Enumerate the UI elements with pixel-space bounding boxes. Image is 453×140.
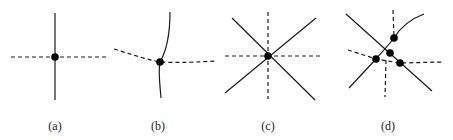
vertex-dot: [372, 55, 380, 63]
panel-c: [225, 12, 322, 100]
vertex-dot: [264, 52, 272, 60]
panel-label-d: (d): [381, 119, 395, 134]
panel-label-c: (c): [261, 119, 274, 134]
panel-label-a: (a): [48, 119, 61, 134]
vertex-dot: [386, 49, 394, 57]
panel-label-b: (b): [151, 119, 165, 134]
panel-a: [11, 13, 107, 100]
vertex-dot: [156, 58, 164, 66]
panel-b: [114, 12, 215, 98]
dashed-line: [385, 60, 386, 97]
solid-curve: [159, 12, 170, 98]
dashed-line: [393, 10, 394, 38]
vertex-dot: [390, 34, 398, 42]
vertex-dot: [396, 59, 404, 67]
dashed-line: [348, 50, 443, 63]
panel-d: [346, 10, 443, 97]
intersection-figure: (a) (b) (c) (d): [0, 0, 453, 140]
solid-diagonal-line: [232, 18, 315, 100]
vertex-dot: [51, 53, 59, 61]
